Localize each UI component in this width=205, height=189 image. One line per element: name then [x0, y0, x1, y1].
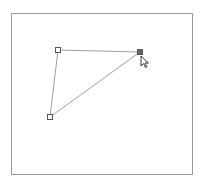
vertex-handle-right-selected[interactable] — [138, 50, 143, 55]
vertex-handle-top-left[interactable] — [56, 48, 61, 53]
vertex-handle-bottom-left[interactable] — [48, 115, 53, 120]
mouse-cursor-icon — [141, 56, 149, 68]
triangle-shape[interactable] — [50, 50, 140, 117]
polygon-layer[interactable] — [0, 0, 205, 189]
